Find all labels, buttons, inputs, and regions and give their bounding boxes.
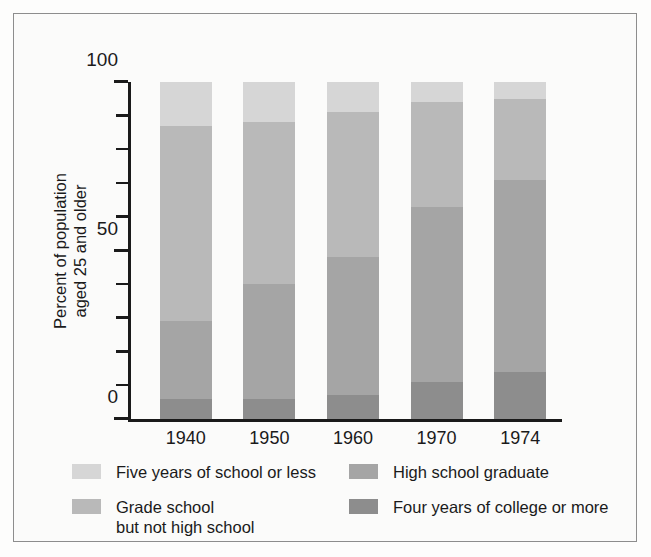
bar-segment (327, 82, 379, 112)
x-axis-label-1970: 1970 (392, 428, 482, 449)
bar-segment (327, 257, 379, 395)
legend-label: High school graduate (393, 462, 632, 483)
x-axis-label-1950: 1950 (224, 428, 314, 449)
legend-swatch (349, 464, 378, 479)
bar-1974[interactable] (494, 82, 546, 419)
legend-column-right: High school graduateFour years of colleg… (349, 462, 632, 531)
x-axis-label-1940: 1940 (141, 428, 231, 449)
legend-column-left: Five years of school or lessGrade school… (72, 462, 352, 552)
bar-segment (411, 82, 463, 102)
bar-segment (494, 82, 546, 99)
y-tick-70 (116, 182, 128, 185)
x-axis-label-1960: 1960 (308, 428, 398, 449)
y-axis-title: Percent of population aged 25 and older (48, 82, 92, 419)
y-tick-0 (114, 417, 128, 420)
y-tick-100 (114, 80, 128, 83)
y-tick-label-50: 50 (97, 217, 118, 239)
plot-area: 100500 19401950196019701974 (138, 82, 556, 419)
bar-segment (327, 395, 379, 419)
bar-segment (160, 82, 212, 126)
y-tick-label-100: 100 (86, 49, 118, 71)
y-tick-20 (116, 350, 128, 353)
bar-segment (494, 372, 546, 419)
bar-segment (243, 122, 295, 284)
y-axis-title-line-2: aged 25 and older (71, 184, 89, 317)
bar-1940[interactable] (160, 82, 212, 419)
bar-segment (494, 180, 546, 372)
bar-1950[interactable] (243, 82, 295, 419)
legend-label: Four years of college or more (393, 497, 632, 518)
y-tick-80 (116, 148, 128, 151)
legend-item[interactable]: Four years of college or more (349, 497, 632, 518)
bar-segment (411, 102, 463, 206)
bar-1960[interactable] (327, 82, 379, 419)
y-axis-line (128, 82, 131, 419)
bar-segment (160, 126, 212, 321)
y-axis-title-line-1: Percent of population (51, 173, 69, 329)
y-tick-50 (114, 249, 128, 252)
bar-segment (160, 399, 212, 419)
figure-border: Percent of population aged 25 and older … (13, 13, 637, 542)
legend-swatch (349, 499, 378, 514)
bar-1970[interactable] (411, 82, 463, 419)
x-axis-line (128, 419, 562, 422)
bar-segment (327, 112, 379, 257)
legend-label: Five years of school or less (116, 462, 352, 483)
legend-item[interactable]: Five years of school or less (72, 462, 352, 483)
legend-swatch (72, 499, 101, 514)
bar-segment (243, 82, 295, 122)
legend-swatch (72, 464, 101, 479)
legend-item[interactable]: High school graduate (349, 462, 632, 483)
bar-segment (243, 284, 295, 399)
y-tick-90 (116, 114, 128, 117)
x-axis-label-1974: 1974 (475, 428, 565, 449)
bar-segment (243, 399, 295, 419)
bar-segment (160, 321, 212, 399)
bar-segment (494, 99, 546, 180)
y-tick-40 (116, 283, 128, 286)
figure-container: Percent of population aged 25 and older … (0, 0, 651, 557)
bar-segment (411, 382, 463, 419)
legend-item[interactable]: Grade school but not high school (72, 497, 352, 538)
legend-label: Grade school but not high school (116, 497, 352, 538)
y-tick-30 (116, 316, 128, 319)
bar-segment (411, 207, 463, 382)
y-tick-label-0: 0 (107, 386, 118, 408)
